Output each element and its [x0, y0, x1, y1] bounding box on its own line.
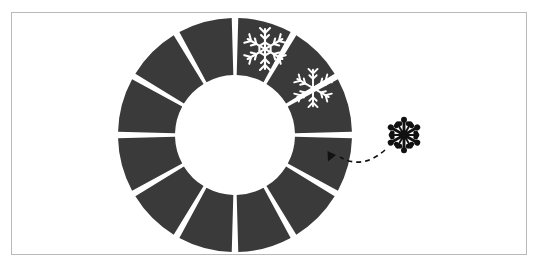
snowflake-icon-detached[interactable]: [385, 117, 423, 154]
ring-segment-group: [118, 18, 352, 252]
figure-canvas: [0, 0, 538, 267]
ring-diagram-svg: [0, 0, 538, 267]
